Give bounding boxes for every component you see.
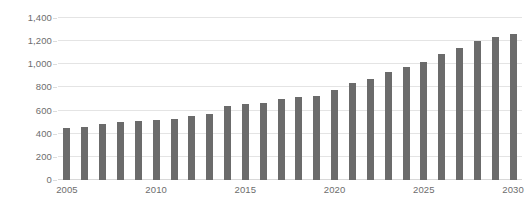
bar [135, 121, 142, 180]
bars-group [58, 18, 522, 180]
y-axis-tick [53, 41, 57, 42]
x-axis-tick-label: 2015 [235, 184, 257, 195]
y-axis-tick-label: 1,400 [0, 13, 52, 23]
x-axis-tick-label: 2030 [502, 184, 524, 195]
y-axis-tick [53, 18, 57, 19]
bar [224, 106, 231, 180]
y-axis-tick-label: 1,000 [0, 59, 52, 69]
bar [420, 62, 427, 180]
y-axis-tick [53, 157, 57, 158]
y-axis-tick [53, 87, 57, 88]
y-axis-tick [53, 180, 57, 181]
bar [438, 54, 445, 180]
bar [349, 83, 356, 180]
bar [456, 48, 463, 180]
bar [63, 128, 70, 180]
y-axis-tick-label: 800 [0, 82, 52, 92]
x-axis-tick-label: 2020 [324, 184, 346, 195]
bar [313, 96, 320, 180]
bar [242, 104, 249, 180]
bar [492, 37, 499, 180]
bar [188, 116, 195, 180]
bar [99, 124, 106, 180]
bar [206, 114, 213, 180]
bar [403, 67, 410, 180]
bar [295, 97, 302, 180]
y-axis-tick-label: 600 [0, 106, 52, 116]
y-axis-tick-label: 400 [0, 129, 52, 139]
bar [81, 127, 88, 180]
bar [385, 72, 392, 180]
y-axis-tick [53, 111, 57, 112]
y-axis-tick [53, 134, 57, 135]
bar-chart: 02004006008001,0001,2001,400 20052010201… [0, 0, 528, 215]
x-axis-tick-label: 2010 [145, 184, 167, 195]
bar [367, 79, 374, 180]
bar [510, 34, 517, 180]
x-axis-tick-label: 2005 [56, 184, 78, 195]
bar [331, 90, 338, 180]
bar [117, 122, 124, 180]
bar [474, 41, 481, 180]
bar [153, 120, 160, 180]
y-axis-tick [53, 64, 57, 65]
y-axis-labels: 02004006008001,0001,2001,400 [0, 0, 52, 215]
y-axis-tick-label: 200 [0, 152, 52, 162]
x-axis-labels: 200520102015202020252030 [58, 184, 522, 204]
bar [278, 99, 285, 180]
x-axis-tick-label: 2025 [413, 184, 435, 195]
y-axis-tick-label: 0 [0, 175, 52, 185]
y-axis-tick-label: 1,200 [0, 36, 52, 46]
bar [260, 103, 267, 180]
bar [171, 119, 178, 180]
